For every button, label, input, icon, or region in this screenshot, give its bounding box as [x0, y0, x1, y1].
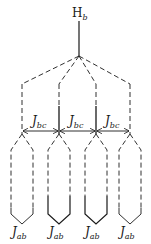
branch-lines	[22, 56, 130, 84]
splitting-col-1	[11, 134, 33, 224]
coupling-label-1: Jbc	[29, 114, 47, 130]
bottom-label-2: Jab	[46, 225, 64, 241]
bottom-label-1: Jab	[9, 225, 27, 241]
coupling-label-3: Jbc	[102, 114, 120, 130]
splitting-shapes	[11, 134, 141, 224]
bottom-label-4: Jab	[117, 225, 135, 241]
coupling-diagram: Hb Jbc Jbc Jbc	[0, 0, 151, 244]
bottom-label-3: Jab	[82, 225, 100, 241]
root-label: Hb	[72, 6, 88, 22]
splitting-col-3	[85, 134, 107, 224]
coupling-label-2: Jbc	[66, 114, 84, 130]
splitting-col-2	[48, 134, 70, 224]
splitting-col-4	[119, 134, 141, 224]
